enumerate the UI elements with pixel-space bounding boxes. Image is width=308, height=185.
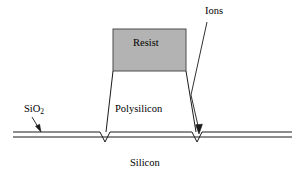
label-sio2-base: SiO — [24, 103, 40, 114]
label-sio2: SiO2 — [24, 104, 44, 116]
resist-rectangle — [113, 29, 186, 71]
semiconductor-cross-section-diagram: Ions Resist Polysilicon SiO2 Silicon — [0, 0, 308, 185]
oxide-layer-lines — [13, 132, 292, 142]
label-silicon: Silicon — [130, 158, 160, 169]
sio2-arrowhead — [36, 124, 41, 132]
label-polysilicon: Polysilicon — [115, 104, 162, 115]
label-ions: Ions — [205, 6, 223, 17]
label-resist: Resist — [133, 38, 159, 49]
polysilicon-left-sidewall — [106, 71, 113, 132]
polysilicon-gate-outline — [106, 71, 196, 132]
label-sio2-subscript: 2 — [40, 107, 44, 116]
resist-mask-block — [113, 29, 186, 71]
sio2-leader-arrow — [32, 117, 41, 132]
